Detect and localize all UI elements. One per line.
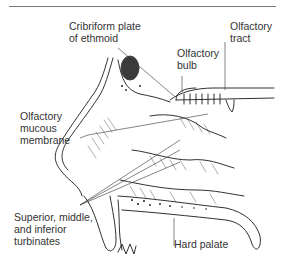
bone-stipple bbox=[121, 85, 207, 210]
superior-turbinate bbox=[150, 115, 226, 138]
leader-lines bbox=[80, 42, 225, 246]
frontal-sinus bbox=[121, 56, 139, 80]
label-olfactory-mucous-membrane: Olfactory mucous membrane bbox=[20, 110, 70, 146]
label-cribriform-plate: Cribriform plate of ethmoid bbox=[69, 20, 141, 44]
inferior-turbinate bbox=[120, 180, 244, 196]
label-olfactory-tract: Olfactory tract bbox=[230, 20, 272, 44]
label-turbinates: Superior, middle, and inferior turbinate… bbox=[14, 211, 93, 247]
label-hard-palate: Hard palate bbox=[174, 238, 228, 250]
olfactory-tract-shape bbox=[170, 88, 274, 100]
label-olfactory-bulb: Olfactory bulb bbox=[177, 47, 219, 71]
